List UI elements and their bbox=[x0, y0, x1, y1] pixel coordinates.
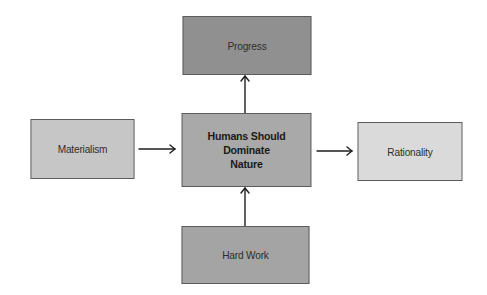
node-hard-work: Hard Work bbox=[182, 226, 310, 284]
node-rationality: Rationality bbox=[358, 122, 463, 181]
arrow-center-to-rationality bbox=[317, 147, 352, 155]
node-progress-label: Progress bbox=[227, 39, 266, 53]
node-hard-work-label: Hard Work bbox=[222, 248, 269, 262]
arrow-hardwork-to-center bbox=[241, 188, 249, 226]
node-materialism-label: Materialism bbox=[58, 142, 108, 156]
node-rationality-label: Rationality bbox=[387, 145, 432, 159]
node-progress: Progress bbox=[183, 16, 312, 75]
arrow-materialism-to-center bbox=[139, 145, 175, 153]
node-materialism: Materialism bbox=[31, 119, 135, 179]
node-center-label-line2: Dominate bbox=[223, 143, 270, 157]
arrow-center-to-progress bbox=[241, 76, 249, 113]
node-humans-should-dominate-nature: Humans Should Dominate Nature bbox=[182, 113, 312, 187]
node-center-label-line3: Nature bbox=[230, 157, 262, 171]
node-center-label-line1: Humans Should bbox=[207, 129, 285, 143]
